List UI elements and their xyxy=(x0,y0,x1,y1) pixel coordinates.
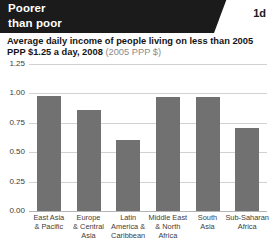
x-axis-category-label: Sub-Saharan Africa xyxy=(224,213,270,231)
chart-figure: Poorer than poor 1d Average daily income… xyxy=(0,0,270,250)
x-axis-labels: East Asia & PacificEurope & Central Asia… xyxy=(29,213,267,250)
bar xyxy=(77,110,101,211)
y-axis-tick-label: 0.75 xyxy=(0,119,25,127)
bar xyxy=(116,140,140,211)
y-axis-tick-label: 1.25 xyxy=(0,60,25,68)
bar xyxy=(196,97,220,211)
y-axis-tick-label: 0.50 xyxy=(0,148,25,156)
y-axis-tick-label: 1.00 xyxy=(0,89,25,97)
y-axis-tick-label: 0.25 xyxy=(0,178,25,186)
y-axis-tick-label: 0.00 xyxy=(0,207,25,215)
bar xyxy=(156,97,180,211)
bar xyxy=(37,96,61,211)
bar xyxy=(235,128,259,211)
plot-area: 0.000.250.500.751.001.25 East Asia & Pac… xyxy=(0,0,270,250)
